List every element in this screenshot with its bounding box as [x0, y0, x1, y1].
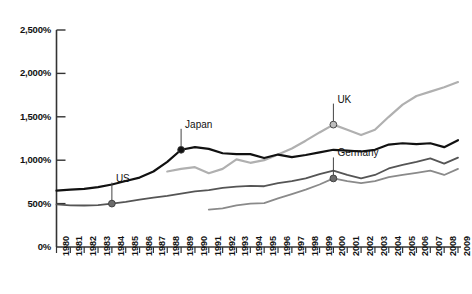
x-tick-label: 1995	[268, 236, 278, 256]
y-tick-label: 500%	[0, 198, 51, 209]
x-tick-label: 1986	[144, 236, 154, 256]
x-tick-label: 2008	[448, 236, 458, 256]
x-tick-label: 1987	[157, 236, 167, 256]
x-tick-label: 2002	[365, 236, 375, 256]
x-tick-label: 2006	[420, 236, 430, 256]
x-tick-label: 1981	[74, 236, 84, 256]
x-tick-label: 2003	[379, 236, 389, 256]
x-tick-label: 1984	[116, 236, 126, 256]
x-tick-label: 1990	[199, 236, 209, 256]
y-tick-label: 0%	[0, 241, 51, 252]
data-marker-us	[108, 200, 115, 207]
x-tick-label: 1997	[296, 236, 306, 256]
x-tick-label: 2007	[434, 236, 444, 256]
y-tick-label: 1,000%	[0, 154, 51, 165]
x-tick-label: 1994	[254, 236, 264, 256]
data-marker-germany	[330, 175, 337, 182]
x-tick-label: 2005	[407, 236, 417, 256]
x-tick-label: 1989	[185, 236, 195, 256]
x-tick-label: 1992	[227, 236, 237, 256]
x-tick-label: 1988	[171, 236, 181, 256]
series-label-germany: Germany	[337, 147, 378, 158]
series-label-uk: UK	[337, 94, 351, 105]
x-tick-label: 1999	[324, 236, 334, 256]
x-tick-label: 1985	[130, 236, 140, 256]
x-tick-label: 1982	[88, 236, 98, 256]
x-tick-label: 1998	[310, 236, 320, 256]
x-tick-label: 1991	[213, 236, 223, 256]
x-tick-label: 2009	[462, 236, 472, 256]
data-marker-uk	[330, 121, 337, 128]
x-tick-label: 2000	[337, 236, 347, 256]
x-tick-label: 1983	[102, 236, 112, 256]
y-tick-label: 2,500%	[0, 24, 51, 35]
x-tick-label: 1980	[61, 236, 71, 256]
y-tick-label: 1,500%	[0, 111, 51, 122]
x-tick-label: 2001	[351, 236, 361, 256]
x-tick-label: 2004	[393, 236, 403, 256]
x-tick-label: 1993	[240, 236, 250, 256]
x-tick-label: 1996	[282, 236, 292, 256]
y-tick-label: 2,000%	[0, 67, 51, 78]
series-label-japan: Japan	[185, 119, 212, 130]
data-marker-japan	[178, 146, 185, 153]
series-label-us: US	[116, 173, 130, 184]
